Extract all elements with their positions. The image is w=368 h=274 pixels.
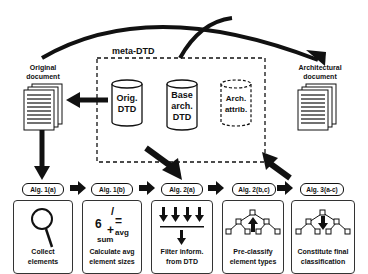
alg-2bc-label: Alg. 2(b,c) [232, 183, 276, 196]
step-pre-classify: Pre-classify element types [222, 200, 284, 274]
step-caption: Collect elements [14, 247, 72, 267]
cylinder-base-arch-dtd-label: Base arch. DTD [167, 90, 197, 123]
architectural-document-icon [298, 84, 336, 130]
arrow-down-alg1a [34, 166, 50, 180]
filter-arrows-icon [152, 201, 212, 251]
step-filter-inform: Filter inform. from DTD [151, 200, 213, 274]
alg-2a-label: Alg. 2(a) [161, 183, 203, 196]
architectural-document-label: Architectural document [280, 63, 360, 81]
cylinder-orig-dtd-label: Orig. DTD [112, 93, 142, 115]
step-collect-elements: Collect elements [13, 200, 73, 274]
alg-1a-label: Alg. 1(a) [22, 183, 64, 196]
alg-3ac-label: Alg. 3(a-c) [300, 183, 344, 196]
original-document-label: Original document [8, 63, 78, 81]
step-caption: Calculate avg element sizes [83, 247, 141, 267]
step-caption: Constitute final classification [292, 247, 354, 267]
step-calculate-avg: 6 / + = sum avg Calculate avg element si… [82, 200, 142, 274]
step-constitute-final: Constitute final classification [291, 200, 355, 274]
alg-1b-label: Alg. 1(b) [91, 183, 133, 196]
tree-up-icon [223, 201, 283, 251]
arc-meta-to-main [180, 18, 232, 58]
step-caption: Pre-classify element types [223, 247, 283, 267]
arrow-to-original-doc [66, 92, 80, 108]
cylinder-arch-attrib-label: Arch. attrib. [219, 93, 253, 115]
formula-icon: 6 / + = sum avg [83, 201, 141, 249]
tree-down-icon [292, 201, 354, 251]
original-document-icon [24, 84, 62, 130]
step-caption: Filter inform. from DTD [152, 247, 212, 267]
magnifier-icon [14, 201, 72, 251]
meta-dtd-label: meta-DTD [112, 46, 155, 56]
